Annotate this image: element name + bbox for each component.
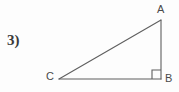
right-angle-marker-icon [152,70,161,79]
geometry-figure-canvas: 3) A B C [0,0,179,92]
vertex-label-a: A [157,4,164,15]
right-triangle-drawing [0,0,179,92]
hypotenuse-edge-ca [59,20,161,79]
vertex-label-c: C [46,71,54,82]
vertex-label-b: B [165,73,172,84]
